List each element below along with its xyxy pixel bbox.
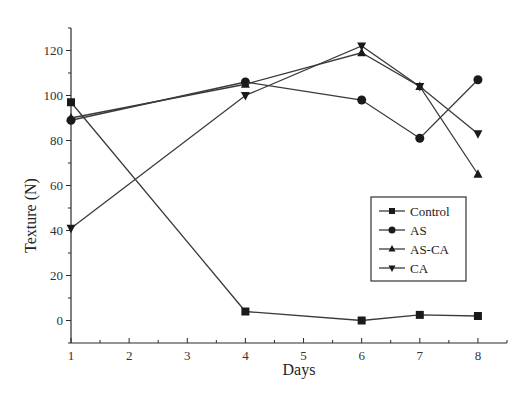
data-point-as <box>473 75 482 84</box>
x-tick-label: 4 <box>242 348 249 363</box>
legend-marker-control <box>389 208 395 214</box>
data-point-control <box>241 308 249 316</box>
y-tick-label: 60 <box>50 178 63 193</box>
series-group <box>67 43 483 325</box>
y-tick-label: 40 <box>50 223 63 238</box>
x-tick-label: 1 <box>68 348 75 363</box>
legend: ControlASAS-CACA <box>371 197 466 281</box>
x-tick-label: 6 <box>358 348 365 363</box>
data-point-ca <box>241 92 250 101</box>
data-point-as <box>357 96 366 105</box>
series-as-ca <box>67 48 483 178</box>
data-point-control <box>67 98 75 106</box>
data-point-control <box>416 311 424 319</box>
y-tick-label: 80 <box>50 133 63 148</box>
x-tick-label: 2 <box>126 348 133 363</box>
y-tick-label: 120 <box>44 43 64 58</box>
data-point-ca <box>67 225 76 234</box>
x-tick-label: 7 <box>417 348 424 363</box>
legend-label: Control <box>410 204 450 219</box>
x-tick-label: 8 <box>475 348 482 363</box>
data-point-control <box>474 312 482 320</box>
legend-label: AS <box>410 223 427 238</box>
legend-label: AS-CA <box>410 242 450 257</box>
legend-marker-as <box>389 227 396 234</box>
data-point-ca <box>473 130 482 139</box>
x-axis-title: Days <box>283 361 316 379</box>
data-point-as <box>415 134 424 143</box>
y-tick-label: 20 <box>50 268 63 283</box>
data-point-control <box>358 317 366 325</box>
y-tick-label: 100 <box>44 88 64 103</box>
series-line-as-ca <box>71 53 478 175</box>
x-tick-label: 3 <box>184 348 191 363</box>
y-axis-title: Texture (N) <box>22 178 40 253</box>
legend-label: CA <box>410 261 429 276</box>
line-chart: 02040608010012012345678 ControlASAS-CACA… <box>0 0 526 402</box>
y-tick-label: 0 <box>57 313 64 328</box>
